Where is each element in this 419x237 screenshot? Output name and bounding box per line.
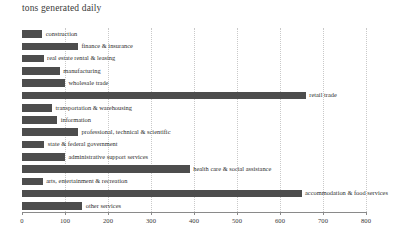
bars-layer: constructionfinance & insurancereal esta… bbox=[22, 28, 366, 212]
x-axis-tick-label: 500 bbox=[232, 217, 242, 224]
x-axis-tick-label: 400 bbox=[189, 217, 199, 224]
bar-row[interactable]: health care & social assistance bbox=[22, 163, 366, 175]
bar-row[interactable]: accommodation & food services bbox=[22, 187, 366, 199]
bar-label: state & federal government bbox=[44, 141, 117, 147]
bar[interactable] bbox=[22, 104, 52, 112]
bar-label: administrative support services bbox=[65, 154, 148, 160]
bar-label: wholesale trade bbox=[65, 80, 108, 86]
plot-area: constructionfinance & insurancereal esta… bbox=[22, 28, 366, 212]
bar-row[interactable]: state & federal government bbox=[22, 138, 366, 150]
bar-row[interactable]: arts, entertainment & recreation bbox=[22, 175, 366, 187]
x-axis-tick-mark bbox=[22, 212, 23, 215]
bar-label: real estate rental & leasing bbox=[44, 55, 116, 61]
x-axis-tick-mark bbox=[108, 212, 109, 215]
bar[interactable] bbox=[22, 141, 44, 149]
x-axis-tick-label: 100 bbox=[60, 217, 70, 224]
bar[interactable] bbox=[22, 190, 302, 198]
bar-row[interactable]: finance & insurance bbox=[22, 40, 366, 52]
bar[interactable] bbox=[22, 116, 57, 124]
bar-row[interactable]: retail trade bbox=[22, 89, 366, 101]
bar[interactable] bbox=[22, 30, 42, 38]
bar-row[interactable]: other services bbox=[22, 200, 366, 212]
bar-label: arts, entertainment & recreation bbox=[43, 178, 128, 184]
x-axis-tick-label: 0 bbox=[20, 217, 23, 224]
x-axis-tick-mark bbox=[194, 212, 195, 215]
bar[interactable] bbox=[22, 165, 190, 173]
bar-label: manufacturing bbox=[60, 68, 101, 74]
bar-label: transportation & warehousing bbox=[52, 105, 132, 111]
bar-row[interactable]: wholesale trade bbox=[22, 77, 366, 89]
x-axis-tick-label: 300 bbox=[146, 217, 156, 224]
x-axis-tick-mark bbox=[323, 212, 324, 215]
x-axis-tick-mark bbox=[65, 212, 66, 215]
bar-row[interactable]: construction bbox=[22, 28, 366, 40]
bar-chart: tons generated daily constructionfinance… bbox=[0, 0, 419, 237]
bar-label: other services bbox=[82, 203, 121, 209]
x-axis-tick-mark bbox=[366, 212, 367, 215]
bar[interactable] bbox=[22, 128, 78, 136]
bar[interactable] bbox=[22, 55, 44, 63]
x-axis-tick-label: 700 bbox=[318, 217, 328, 224]
bar-label: accommodation & food services bbox=[302, 190, 388, 196]
chart-title: tons generated daily bbox=[22, 3, 102, 13]
bar-row[interactable]: manufacturing bbox=[22, 65, 366, 77]
gridline bbox=[366, 28, 367, 212]
bar-row[interactable]: administrative support services bbox=[22, 151, 366, 163]
bar-label: retail trade bbox=[306, 92, 337, 98]
bar[interactable] bbox=[22, 67, 60, 75]
bar-row[interactable]: transportation & warehousing bbox=[22, 102, 366, 114]
bar-label: construction bbox=[42, 31, 77, 37]
bar-label: finance & insurance bbox=[78, 43, 133, 49]
bar[interactable] bbox=[22, 178, 43, 186]
x-axis-tick-label: 200 bbox=[103, 217, 113, 224]
x-axis-tick-label: 600 bbox=[275, 217, 285, 224]
bar[interactable] bbox=[22, 202, 82, 210]
x-axis-tick-mark bbox=[237, 212, 238, 215]
bar[interactable] bbox=[22, 92, 306, 100]
x-axis-tick-mark bbox=[151, 212, 152, 215]
bar[interactable] bbox=[22, 79, 65, 87]
bar[interactable] bbox=[22, 43, 78, 51]
bar-label: professional, technical & scientific bbox=[78, 129, 171, 135]
bar-row[interactable]: professional, technical & scientific bbox=[22, 126, 366, 138]
bar-label: information bbox=[57, 117, 91, 123]
bar[interactable] bbox=[22, 153, 65, 161]
bar-row[interactable]: real estate rental & leasing bbox=[22, 53, 366, 65]
bar-label: health care & social assistance bbox=[190, 166, 272, 172]
x-axis-tick-label: 800 bbox=[361, 217, 371, 224]
x-axis-tick-mark bbox=[280, 212, 281, 215]
bar-row[interactable]: information bbox=[22, 114, 366, 126]
